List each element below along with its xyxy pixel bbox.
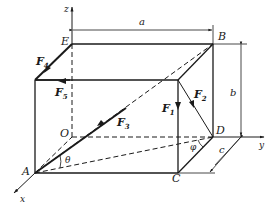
- force-F5-label: F5: [54, 86, 68, 101]
- y-axis-label: y: [258, 140, 265, 150]
- point-O-label: O: [60, 127, 69, 140]
- point-A-label: A: [21, 165, 30, 178]
- phi-arc: [198, 140, 203, 147]
- point-D-label: D: [215, 124, 225, 137]
- F1-arrowhead: [175, 102, 181, 110]
- point-E-label: E: [60, 35, 69, 48]
- edge-top-right: [178, 44, 213, 80]
- x-axis-label: x: [20, 194, 25, 204]
- theta-arc: [60, 155, 61, 168]
- force-F1-label: F1: [161, 102, 175, 117]
- force-F4-label: F4: [35, 55, 49, 70]
- angle-phi-label: φ: [190, 142, 197, 152]
- angle-theta-label: θ: [65, 155, 71, 165]
- angle-arcs: [60, 140, 203, 168]
- axes: [14, 7, 264, 193]
- dim-c-label: c: [219, 144, 225, 155]
- box-force-diagram: z y x E B O A C D a b c θ φ F4 F5 F3 F1 …: [0, 0, 274, 207]
- F5-arrowhead: [58, 78, 66, 84]
- force-F3-line: [35, 108, 126, 173]
- point-B-label: B: [217, 30, 226, 43]
- force-F3-label: F3: [116, 116, 130, 131]
- z-axis-label: z: [63, 4, 69, 14]
- point-C-label: C: [172, 172, 181, 185]
- dim-c-line: [210, 138, 240, 172]
- force-F2-label: F2: [193, 88, 207, 103]
- dim-b-label: b: [230, 87, 236, 98]
- dim-a-label: a: [139, 16, 145, 27]
